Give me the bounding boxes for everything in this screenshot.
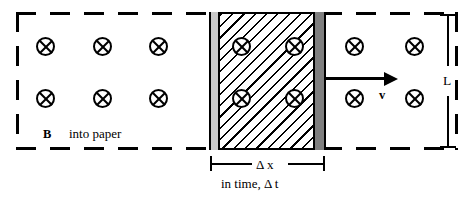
circle-x-icon (345, 89, 364, 108)
circle-x-icon (36, 37, 55, 56)
width-dim-right-line (288, 163, 325, 165)
velocity-label: v (379, 89, 385, 102)
circle-x-icon (285, 37, 304, 56)
field-direction-label: into paper (69, 127, 121, 140)
circle-x-icon (232, 37, 251, 56)
field-region-right-edge (455, 12, 458, 150)
physics-diagram-canvas: v B into paper L Δ x in time, Δ t (0, 0, 474, 198)
field-region-left-edge (16, 12, 19, 150)
circle-x-icon (93, 89, 112, 108)
left-conductor-bar (209, 12, 220, 150)
circle-x-icon (405, 89, 424, 108)
circle-x-icon (36, 89, 55, 108)
height-dim-bottom-tick (440, 146, 456, 148)
velocity-arrow-head (384, 72, 398, 86)
height-dim-upper-line (447, 14, 449, 66)
field-symbol-label: B (43, 128, 51, 141)
width-dim-left-line (210, 163, 253, 165)
height-dim-top-tick (440, 14, 456, 16)
width-dimension-label: Δ x (252, 158, 277, 171)
circle-x-icon (232, 89, 251, 108)
circle-x-icon (345, 37, 364, 56)
right-conductor-bar (313, 12, 326, 150)
height-dim-lower-line (447, 96, 449, 148)
circle-x-icon (285, 89, 304, 108)
circle-x-icon (93, 37, 112, 56)
circle-x-icon (149, 37, 168, 56)
height-dimension-label: L (443, 74, 451, 88)
width-dim-left-tick (210, 156, 212, 171)
velocity-arrow-shaft (324, 77, 386, 80)
swept-area-hatched (209, 12, 326, 150)
circle-x-icon (149, 89, 168, 108)
width-dim-right-tick (323, 156, 325, 171)
circle-x-icon (405, 37, 424, 56)
time-note-label: in time, Δ t (221, 177, 278, 190)
